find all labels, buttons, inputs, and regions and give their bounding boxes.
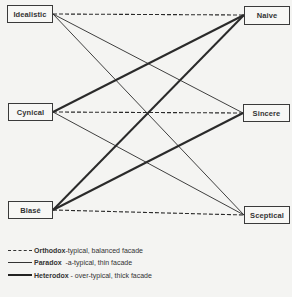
node-label: Idealistic <box>13 10 46 19</box>
legend-description: typical, balanced facade <box>68 247 143 254</box>
legend-item-heterodox: Heterodox - over-typical, thick facade <box>8 269 288 282</box>
node-sincere: Sincere <box>243 104 290 122</box>
legend-description: a-typical, thin facade <box>68 259 132 266</box>
edge-cynical-naive-heterodox <box>53 15 244 112</box>
node-label: Blasé <box>20 206 41 215</box>
edge-idealistic-naive-orthodox <box>53 14 244 15</box>
node-naive: Naive <box>244 6 290 25</box>
dashed-line-swatch-icon <box>8 250 32 251</box>
legend-term: Orthodox <box>34 247 66 254</box>
node-sceptical: Sceptical <box>244 206 290 224</box>
node-idealistic: Idealistic <box>7 5 53 23</box>
legend-item-orthodox: Orthodox - typical, balanced facade <box>8 244 288 257</box>
legend-term: Heterodox <box>34 272 69 279</box>
legend-item-paradox: Paradox - a-typical, thin facade <box>8 257 288 270</box>
node-label: Sincere <box>253 109 281 118</box>
edges-group <box>53 14 244 215</box>
node-label: Naive <box>257 11 278 20</box>
node-blase: Blasé <box>8 201 53 219</box>
legend-term: Paradox <box>34 259 62 266</box>
node-label: Cynical <box>17 108 44 117</box>
node-label: Sceptical <box>250 211 284 220</box>
legend-description: over-typical, thick facade <box>75 272 152 279</box>
legend: Orthodox - typical, balanced facade Para… <box>8 244 288 282</box>
node-cynical: Cynical <box>8 103 53 121</box>
thin-line-swatch-icon <box>8 262 32 263</box>
edge-blase-sceptical-orthodox <box>53 210 244 215</box>
thick-line-swatch-icon <box>8 274 32 276</box>
